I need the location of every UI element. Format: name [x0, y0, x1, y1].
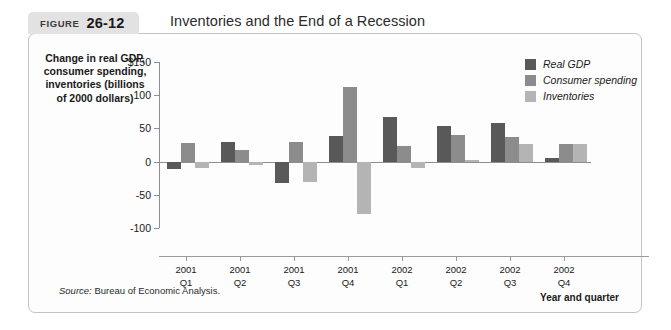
bar: [167, 162, 181, 169]
y-tick: [154, 95, 159, 96]
y-tick-label: 50: [139, 122, 151, 134]
x-tick-label-line: Q2: [445, 277, 466, 290]
legend-label: Consumer spending: [543, 74, 637, 86]
bar: [195, 162, 209, 168]
x-tick: [456, 256, 457, 261]
x-tick-label-line: 2001: [283, 264, 304, 277]
legend-item: Inventories: [525, 88, 637, 104]
legend-item: Real GDP: [525, 56, 637, 72]
bar: [491, 123, 505, 162]
y-axis-line: [159, 62, 160, 228]
chart-legend: Real GDPConsumer spendingInventories: [525, 56, 637, 104]
x-tick-label-line: 2001: [337, 264, 358, 277]
x-tick: [564, 256, 565, 261]
x-axis-line: [159, 256, 649, 257]
y-tick: [154, 128, 159, 129]
x-tick-label-line: 2001: [175, 264, 196, 277]
x-tick-label-line: 2002: [445, 264, 466, 277]
bar: [573, 144, 587, 161]
legend-label: Inventories: [543, 90, 594, 102]
bar: [357, 162, 371, 214]
bar: [329, 136, 343, 161]
bar: [383, 117, 397, 161]
chart-panel: Change in real GDP, consumer spending, i…: [28, 33, 642, 313]
legend-swatch-icon: [525, 75, 536, 86]
legend-label: Real GDP: [543, 58, 590, 70]
x-tick-label: 2002Q2: [445, 264, 466, 289]
x-tick: [240, 256, 241, 261]
y-tick-label: -50: [136, 189, 151, 201]
x-tick-label-line: Q4: [553, 277, 574, 290]
bar: [397, 146, 411, 162]
bar: [289, 142, 303, 161]
y-tick-label: 0: [145, 156, 151, 168]
bar: [451, 135, 465, 162]
x-tick-label-line: Q4: [337, 277, 358, 290]
bar: [559, 144, 573, 161]
x-tick-label-line: Q2: [229, 277, 250, 290]
x-tick: [402, 256, 403, 261]
y-tick: [154, 228, 159, 229]
bar: [303, 162, 317, 182]
x-tick-label-line: Q3: [499, 277, 520, 290]
legend-swatch-icon: [525, 59, 536, 70]
x-tick-label-line: 2002: [499, 264, 520, 277]
zero-line: [159, 162, 591, 163]
source-note: Source: Bureau of Economic Analysis.: [59, 285, 220, 296]
x-tick-label: 2001Q3: [283, 264, 304, 289]
x-tick: [348, 256, 349, 261]
x-tick-label: 2002Q4: [553, 264, 574, 289]
figure-label: FIGURE: [40, 18, 80, 29]
x-tick-label: 2002Q1: [391, 264, 412, 289]
figure-container: FIGURE 26-12 Inventories and the End of …: [0, 0, 671, 330]
x-tick-label-line: 2002: [391, 264, 412, 277]
bar: [235, 150, 249, 161]
bar: [505, 137, 519, 162]
bar: [437, 126, 451, 162]
x-tick-label-line: 2001: [229, 264, 250, 277]
figure-title: Inventories and the End of a Recession: [170, 13, 425, 29]
bar: [275, 162, 289, 183]
x-tick-label-line: Q3: [283, 277, 304, 290]
figure-number-tab: FIGURE 26-12: [28, 12, 139, 34]
x-axis-title: Year and quarter: [540, 292, 619, 303]
bar: [545, 158, 559, 162]
legend-swatch-icon: [525, 91, 536, 102]
bar: [343, 87, 357, 162]
bar: [411, 162, 425, 169]
legend-item: Consumer spending: [525, 72, 637, 88]
x-tick-label: 2002Q3: [499, 264, 520, 289]
x-tick: [510, 256, 511, 261]
y-tick-label: $150: [128, 56, 151, 68]
source-prefix: Source:: [59, 285, 92, 296]
x-tick-label: 2001Q4: [337, 264, 358, 289]
bar: [181, 143, 195, 162]
x-tick: [294, 256, 295, 261]
bar: [249, 162, 263, 165]
bar: [519, 144, 533, 162]
y-tick: [154, 62, 159, 63]
x-tick-label: 2001Q2: [229, 264, 250, 289]
x-tick-label-line: Q1: [391, 277, 412, 290]
x-tick: [186, 256, 187, 261]
bar: [465, 160, 479, 161]
x-tick-label-line: 2002: [553, 264, 574, 277]
figure-number: 26-12: [87, 15, 125, 31]
y-tick-label: -100: [130, 222, 151, 234]
y-tick-label: 100: [133, 89, 151, 101]
bar: [221, 142, 235, 162]
source-text: Bureau of Economic Analysis.: [94, 285, 220, 296]
y-tick: [154, 195, 159, 196]
